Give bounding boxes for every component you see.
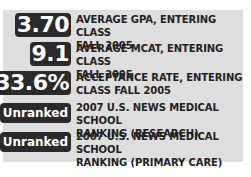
stats-panel: 3.70 AVERAGE GPA, ENTERING CLASS FALL 20… (3, 10, 243, 162)
stat-row-gpa: 3.70 AVERAGE GPA, ENTERING CLASS FALL 20… (3, 12, 243, 40)
stat-row-research-ranking: Unranked 2007 U.S. NEWS MEDICAL SCHOOL R… (3, 100, 243, 128)
stat-value-badge: 33.6% (0, 71, 71, 95)
stat-row-mcat: 9.1 AVERAGE MCAT, ENTERING CLASS FALL 20… (3, 41, 243, 69)
stat-value-badge: 3.70 (15, 13, 71, 37)
stat-row-primary-care-ranking: Unranked 2007 U.S. NEWS MEDICAL SCHOOL R… (3, 129, 243, 157)
stat-row-acceptance: 33.6% ACCEPTANCE RATE, ENTERING CLASS FA… (3, 70, 243, 98)
stat-value-badge: Unranked (0, 132, 71, 152)
stat-label: 2007 U.S. NEWS MEDICAL SCHOOL RANKING (P… (76, 130, 246, 169)
stat-value-badge: Unranked (0, 103, 71, 123)
stat-label: ACCEPTANCE RATE, ENTERING CLASS FALL 200… (76, 71, 246, 97)
stat-value-badge: 9.1 (30, 42, 71, 66)
